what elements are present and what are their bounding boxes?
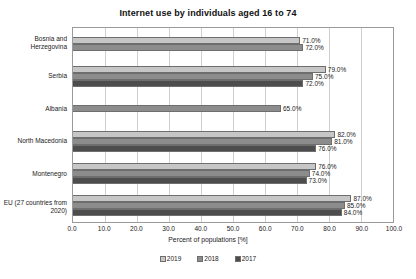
bar-row: 74.0% — [73, 170, 393, 177]
bar-value-label: 72.0% — [305, 44, 323, 51]
category-label: Bosnia and Herzegovina — [0, 27, 70, 60]
legend-label: 2017 — [242, 255, 256, 262]
bar-group-bars: 76.0%74.0%73.0% — [73, 163, 393, 184]
bar-2018[interactable] — [73, 73, 313, 80]
bar-2018[interactable] — [73, 138, 332, 145]
bar-value-label: 82.0% — [337, 131, 355, 138]
legend-label: 2019 — [167, 255, 181, 262]
bar-row: 71.0% — [73, 37, 393, 44]
category-label: North Macedonia — [0, 125, 70, 158]
bar-row: 81.0% — [73, 138, 393, 145]
chart-title: Internet use by individuals aged 16 to 7… — [0, 8, 416, 18]
chart-legend: 201920182017 — [0, 255, 416, 262]
bar-group: 71.0%72.0% — [73, 28, 393, 60]
bar-row: 84.0% — [73, 209, 393, 216]
bar-value-label: 76.0% — [318, 163, 336, 170]
bar-2019[interactable] — [73, 37, 300, 44]
x-axis-tick-label: 50.0 — [227, 225, 240, 232]
x-axis-tick-label: 100.0 — [386, 225, 402, 232]
x-axis-tick-label: 0.0 — [67, 225, 76, 232]
bar-value-label: 71.0% — [302, 37, 320, 44]
bar-2019[interactable] — [73, 195, 351, 202]
category-label: EU (27 countries from 2020) — [0, 190, 70, 223]
legend-swatch-icon — [197, 256, 203, 262]
bar-row: 76.0% — [73, 163, 393, 170]
bar-group: 79.0%75.0%72.0% — [73, 60, 393, 92]
bar-group-bars: 79.0%75.0%72.0% — [73, 66, 393, 87]
bar-value-label: 76.0% — [318, 145, 336, 152]
bar-row: 82.0% — [73, 131, 393, 138]
bar-2017[interactable] — [73, 80, 303, 87]
bar-value-label: 72.0% — [305, 80, 323, 87]
bar-2019[interactable] — [73, 163, 316, 170]
bar-row: 72.0% — [73, 44, 393, 51]
category-label: Albania — [0, 92, 70, 125]
bar-2019[interactable] — [73, 66, 326, 73]
legend-label: 2018 — [204, 255, 218, 262]
bar-value-label: 73.0% — [309, 177, 327, 184]
bar-group-bars: 71.0%72.0% — [73, 37, 393, 51]
x-axis-title: Percent of populations [%] — [0, 236, 416, 243]
bar-row: 85.0% — [73, 202, 393, 209]
x-axis-tick-label: 90.0 — [355, 225, 368, 232]
x-axis-tick-label: 80.0 — [323, 225, 336, 232]
bar-2019[interactable] — [73, 131, 335, 138]
x-axis-tick-label: 40.0 — [194, 225, 207, 232]
bar-row: 76.0% — [73, 145, 393, 152]
bar-value-label: 79.0% — [328, 66, 346, 73]
legend-item-2019[interactable]: 2019 — [160, 255, 181, 262]
bar-row: 87.0% — [73, 195, 393, 202]
bar-row: 65.0% — [73, 105, 393, 112]
bar-row: 73.0% — [73, 177, 393, 184]
legend-swatch-icon — [235, 256, 241, 262]
x-axis-tick-label: 60.0 — [259, 225, 272, 232]
bar-group: 87.0%85.0%84.0% — [73, 190, 393, 222]
bar-row: 72.0% — [73, 80, 393, 87]
legend-item-2018[interactable]: 2018 — [197, 255, 218, 262]
category-label: Montenegro — [0, 158, 70, 191]
bar-value-label: 74.0% — [312, 170, 330, 177]
plot-area: 71.0%72.0%79.0%75.0%72.0%65.0%82.0%81.0%… — [72, 27, 394, 223]
bar-value-label: 75.0% — [315, 73, 333, 80]
x-axis-ticks: 0.010.020.030.040.050.060.070.080.090.01… — [72, 225, 394, 235]
bar-group: 65.0% — [73, 93, 393, 125]
category-axis-labels: Bosnia and HerzegovinaSerbiaAlbaniaNorth… — [0, 27, 70, 223]
category-label: Serbia — [0, 60, 70, 93]
bar-2017[interactable] — [73, 209, 342, 216]
bar-2018[interactable] — [73, 105, 281, 112]
x-axis-tick-label: 70.0 — [291, 225, 304, 232]
legend-item-2017[interactable]: 2017 — [235, 255, 256, 262]
bar-group-bars: 87.0%85.0%84.0% — [73, 195, 393, 216]
bar-value-label: 84.0% — [344, 209, 362, 216]
bar-value-label: 65.0% — [283, 105, 301, 112]
bar-2017[interactable] — [73, 145, 316, 152]
bar-group-bars: 82.0%81.0%76.0% — [73, 131, 393, 152]
bar-row: 75.0% — [73, 73, 393, 80]
bar-value-label: 85.0% — [347, 202, 365, 209]
bar-2018[interactable] — [73, 202, 345, 209]
chart-container: Internet use by individuals aged 16 to 7… — [0, 0, 416, 279]
bar-row: 79.0% — [73, 66, 393, 73]
x-axis-tick-label: 10.0 — [98, 225, 111, 232]
bar-group-bars: 65.0% — [73, 105, 393, 112]
bar-groups: 71.0%72.0%79.0%75.0%72.0%65.0%82.0%81.0%… — [73, 28, 393, 222]
legend-swatch-icon — [160, 256, 166, 262]
bar-2017[interactable] — [73, 177, 307, 184]
bar-value-label: 81.0% — [334, 138, 352, 145]
bar-group: 76.0%74.0%73.0% — [73, 157, 393, 189]
bar-value-label: 87.0% — [353, 195, 371, 202]
x-axis-tick-label: 30.0 — [162, 225, 175, 232]
bar-2018[interactable] — [73, 170, 310, 177]
bar-group: 82.0%81.0%76.0% — [73, 125, 393, 157]
x-axis-tick-label: 20.0 — [130, 225, 143, 232]
bar-2018[interactable] — [73, 44, 303, 51]
